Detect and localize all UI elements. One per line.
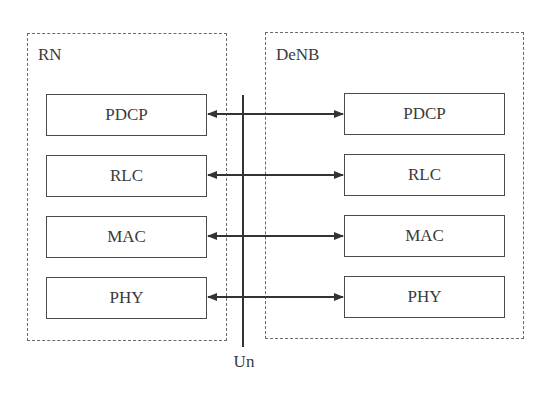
un-interface-label: Un [234,352,255,372]
rn-mac-layer: MAC [46,216,207,258]
denb-pdcp-layer: PDCP [344,93,505,135]
denb-phy-layer: PHY [344,276,505,318]
denb-rlc-layer: RLC [344,154,505,196]
rn-rlc-layer: RLC [46,155,207,197]
rn-phy-layer: PHY [46,277,207,319]
links-layer [0,0,551,395]
denb-mac-layer: MAC [344,215,505,257]
rn-pdcp-layer: PDCP [46,94,207,136]
